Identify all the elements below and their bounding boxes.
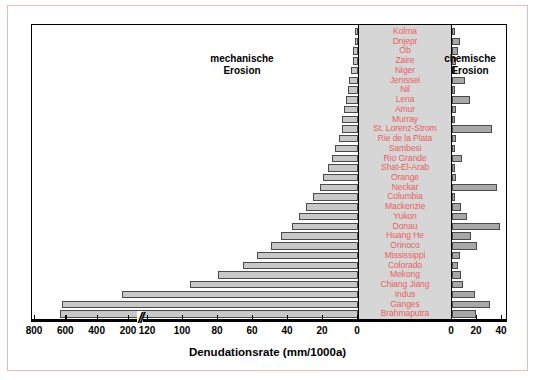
bar-chemical-erosion: [452, 252, 460, 259]
bar-row: Shat-El-Arab: [32, 163, 506, 173]
bar-chemical-erosion: [452, 164, 455, 171]
bar-mechanical-erosion: [332, 155, 358, 162]
bar-row: Colorado: [32, 261, 506, 271]
bar-row: Dnjepr: [32, 37, 506, 47]
annotation-chemical-line2: Erosion: [430, 65, 510, 77]
bar-row: Orinoco: [32, 241, 506, 251]
axis-tick-label: 20: [316, 325, 327, 336]
bar-row: Yukon: [32, 212, 506, 222]
bar-mechanical-erosion: [271, 242, 359, 249]
axis-tick: [182, 315, 183, 322]
axis-tick-label: 60: [246, 325, 257, 336]
bar-chemical-erosion: [452, 193, 455, 200]
axis-tick-label: 0: [448, 325, 454, 336]
bar-chemical-erosion: [452, 135, 456, 142]
bar-mechanical-erosion: [349, 77, 358, 84]
x-axis-line: [31, 320, 507, 322]
bar-mechanical-erosion: [281, 232, 358, 239]
plot-area: KolmaDnjeprObZaireNigerJenisseiNilLenaAm…: [31, 24, 507, 320]
x-axis: 80060040020012010080604020002040 //: [31, 320, 507, 346]
bar-chemical-erosion: [452, 271, 461, 278]
bar-chemical-erosion: [452, 116, 455, 123]
bar-mechanical-erosion: [299, 213, 359, 220]
bar-row: Kolma: [32, 27, 506, 37]
bar-mechanical-erosion: [218, 271, 358, 278]
bar-chemical-erosion: [452, 86, 455, 93]
axis-tick: [357, 315, 358, 322]
axis-tick: [34, 315, 35, 322]
axis-tick: [128, 315, 129, 322]
axis-tick-label: 400: [88, 325, 105, 336]
axis-tick: [322, 315, 323, 322]
bar-mechanical-erosion: [320, 184, 359, 191]
annotation-mechanical-line2: Erosion: [182, 65, 302, 77]
bar-chemical-erosion: [452, 223, 500, 230]
axis-tick: [147, 315, 148, 322]
axis-tick: [65, 315, 66, 322]
axis-tick-label: 800: [26, 325, 43, 336]
bar-row: Donau: [32, 222, 506, 232]
annotation-mechanical-line1: mechanische: [182, 53, 302, 65]
bar-row: Chiang Jiang: [32, 280, 506, 290]
bar-row: Amur: [32, 105, 506, 115]
bar-chemical-erosion: [452, 232, 471, 239]
bar-row: Mackenzie: [32, 202, 506, 212]
bar-mechanical-erosion: [348, 86, 359, 93]
axis-break-marker: //: [137, 311, 143, 324]
axis-tick-label: 200: [120, 325, 137, 336]
axis-tick-label: 40: [281, 325, 292, 336]
bar-chemical-erosion: [452, 28, 455, 35]
bar-row: Jenissei: [32, 76, 506, 86]
axis-tick-label: 0: [354, 325, 360, 336]
bar-mechanical-erosion: [342, 116, 358, 123]
bar-chemical-erosion: [452, 291, 475, 298]
bar-row: Indus: [32, 290, 506, 300]
bar-row: Brahmaputra: [32, 309, 506, 319]
bar-chemical-erosion: [452, 213, 467, 220]
bar-chemical-erosion: [452, 125, 492, 132]
bar-chemical-erosion: [452, 262, 458, 269]
bar-mechanical-erosion: [346, 96, 358, 103]
bar-row: Nil: [32, 85, 506, 95]
bar-row: St. Lorenz-Strom: [32, 124, 506, 134]
bar-chemical-erosion: [452, 96, 470, 103]
axis-tick-label: 600: [57, 325, 74, 336]
bar-mechanical-erosion: [344, 106, 358, 113]
annotation-chemical-line1: chemische: [430, 53, 510, 65]
bar-chemical-erosion: [452, 145, 455, 152]
axis-tick-label: 40: [495, 325, 506, 336]
bar-row: Ganges: [32, 300, 506, 310]
bar-mechanical-erosion: [62, 301, 358, 308]
bar-row: Rio Grande: [32, 154, 506, 164]
axis-tick: [476, 315, 477, 322]
x-axis-label: Denudationsrate (mm/1000a): [8, 346, 527, 358]
bar-chemical-erosion: [452, 203, 461, 210]
river-name-label: Brahmaputra: [358, 309, 452, 319]
bar-row: Columbia: [32, 192, 506, 202]
annotation-chemical-erosion: chemische Erosion: [430, 53, 510, 76]
bar-mechanical-erosion: [342, 125, 358, 132]
axis-tick: [287, 315, 288, 322]
bar-row: Mississippi: [32, 251, 506, 261]
bar-chemical-erosion: [452, 310, 476, 317]
bar-mechanical-erosion: [60, 310, 358, 317]
bar-row: Rie de la Plata: [32, 134, 506, 144]
axis-tick: [97, 315, 98, 322]
bar-mechanical-erosion: [323, 174, 358, 181]
bar-chemical-erosion: [452, 174, 456, 181]
bar-row: Neckar: [32, 183, 506, 193]
bar-mechanical-erosion: [257, 252, 359, 259]
bar-chemical-erosion: [452, 301, 490, 308]
bar-chemical-erosion: [452, 155, 462, 162]
bar-mechanical-erosion: [292, 223, 359, 230]
bar-mechanical-erosion: [339, 135, 358, 142]
bar-mechanical-erosion: [243, 262, 359, 269]
bar-row: Mekong: [32, 270, 506, 280]
bar-chemical-erosion: [452, 184, 497, 191]
bar-row: Orange: [32, 173, 506, 183]
bar-chemical-erosion: [452, 281, 463, 288]
axis-tick-label: 20: [470, 325, 481, 336]
bar-mechanical-erosion: [122, 291, 358, 298]
bar-chemical-erosion: [452, 242, 477, 249]
bar-chemical-erosion: [452, 77, 465, 84]
